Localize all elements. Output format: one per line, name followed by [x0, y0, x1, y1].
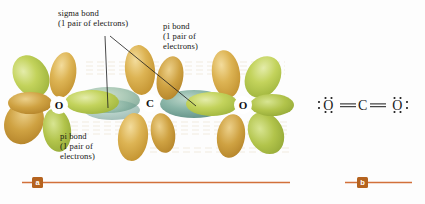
lewis-structure-svg: O C O	[308, 92, 418, 118]
panel-marker-a: a	[32, 177, 43, 188]
atom-label-oxygen-right: O	[239, 99, 248, 111]
atom-label-carbon: C	[146, 97, 154, 109]
pi-bond-label-bottom: pi bond (1 pair of electrons)	[60, 131, 95, 162]
lewis-structure-co2: O C O	[308, 92, 418, 122]
pi-bond-label-top: pi bond (1 pair of electrons)	[163, 21, 198, 52]
sigma-bond-label: sigma bond (1 pair of electrons)	[58, 8, 128, 28]
lewis-atom-carbon: C	[358, 98, 368, 113]
panel-marker-b: b	[357, 177, 368, 188]
atom-oxygen-right: O	[186, 48, 294, 160]
atom-label-oxygen-left: O	[55, 99, 64, 111]
lewis-atom-oxygen-left: O	[323, 98, 334, 113]
lewis-atom-oxygen-right: O	[392, 98, 403, 113]
